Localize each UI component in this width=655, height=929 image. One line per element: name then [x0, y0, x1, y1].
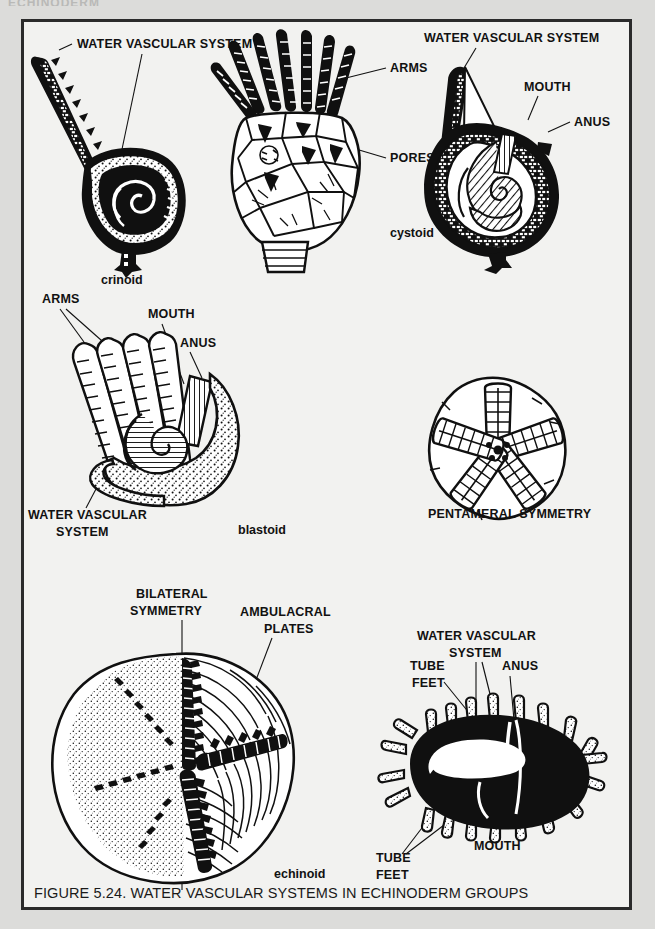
label-blastoid-water-vascular-2: SYSTEM	[56, 525, 109, 539]
caption-crinoid: crinoid	[101, 273, 143, 287]
caption-pentameral-symmetry: PENTAMERAL SYMMETRY	[428, 507, 592, 521]
leader-crinoid-wvs-right	[121, 54, 142, 154]
label-urchin-tube-feet-top-1: TUBE	[410, 659, 445, 673]
pentameral-star	[429, 378, 565, 520]
label-blastoid-arms: ARMS	[42, 292, 80, 306]
label-echinoid-bilateral-2: SYMMETRY	[130, 604, 202, 618]
leader-blastoid-anus	[190, 352, 202, 378]
figure-illustration: WATER VASCULAR SYSTEM	[24, 22, 629, 907]
panel-echinoid: BILATERAL SYMMETRY AMBULACRAL PLATES	[52, 587, 331, 890]
cystoid-stem	[262, 242, 308, 272]
label-crinoid-water-vascular-system: WATER VASCULAR SYSTEM	[77, 37, 252, 51]
label-urchin-water-vascular-1: WATER VASCULAR	[417, 629, 536, 643]
label-section-water-vascular-system: WATER VASCULAR SYSTEM	[424, 31, 599, 45]
label-urchin-tube-feet-top-2: FEET	[412, 676, 445, 690]
label-blastoid-mouth: MOUTH	[148, 307, 195, 321]
section-body	[424, 123, 559, 274]
cut-off-header-text: ECHINODERM	[8, 0, 100, 6]
panel-blastoid: ARMS MOUTH ANUS WATER VASCULAR SYSTEM	[28, 292, 286, 539]
label-urchin-tube-feet-bottom-1: TUBE	[376, 851, 411, 865]
leader-section-mouth	[528, 96, 538, 120]
caption-echinoid: echinoid	[274, 867, 325, 881]
leader-section-wvs	[464, 48, 476, 68]
figure-caption: FIGURE 5.24. WATER VASCULAR SYSTEMS IN E…	[34, 885, 528, 901]
label-section-mouth: MOUTH	[524, 80, 571, 94]
label-echinoid-ambulacral-1: AMBULACRAL	[240, 605, 331, 619]
panel-cystoid: ARMS PORES	[211, 29, 435, 272]
echinoid-test	[52, 654, 293, 883]
label-urchin-anus: ANUS	[502, 659, 538, 673]
cystoid-arms	[211, 29, 356, 119]
page-background: ECHINODERM	[0, 0, 655, 929]
label-urchin-tube-feet-bottom-2: FEET	[376, 868, 409, 882]
panel-crinoid-section: WATER VASCULAR SYSTEM MOUTH ANUS	[424, 31, 610, 274]
caption-cystoid: cystoid	[390, 226, 434, 240]
label-echinoid-bilateral-1: BILATERAL	[136, 587, 208, 601]
leader-section-anus	[548, 122, 570, 132]
leader-crinoid-wvs-left	[59, 44, 72, 50]
crinoid-calyx	[82, 148, 186, 278]
label-blastoid-anus: ANUS	[180, 336, 216, 350]
panel-echinoid-section: WATER VASCULAR SYSTEM TUBE FEET ANUS MOU…	[376, 629, 607, 882]
label-blastoid-water-vascular-1: WATER VASCULAR	[28, 508, 147, 522]
figure-frame: WATER VASCULAR SYSTEM	[21, 19, 632, 910]
cystoid-theca	[232, 112, 360, 251]
label-echinoid-ambulacral-2: PLATES	[264, 622, 314, 636]
label-section-anus: ANUS	[574, 115, 610, 129]
label-cystoid-arms: ARMS	[390, 61, 428, 75]
urchin-body	[410, 715, 589, 830]
caption-blastoid: blastoid	[238, 523, 286, 537]
label-urchin-water-vascular-2: SYSTEM	[449, 646, 502, 660]
panel-pentameral: PENTAMERAL SYMMETRY	[428, 378, 592, 521]
